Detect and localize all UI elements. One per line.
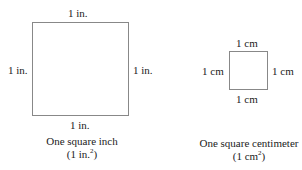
cm-unit-close: ) [262,150,266,162]
inch-unit-close: ) [94,148,98,160]
inch-caption-unit: (1 in.2) [30,148,134,161]
inch-caption: One square inch (1 in.2) [30,135,134,161]
cm-caption: One square centimeter (1 cm2) [196,137,302,163]
cm-bottom-label: 1 cm [236,93,258,105]
cm-caption-title: One square centimeter [196,137,302,150]
inch-caption-title: One square inch [30,135,134,148]
inch-left-label: 1 in. [8,64,28,76]
inch-bottom-label: 1 in. [70,119,90,131]
inch-top-label: 1 in. [68,7,88,19]
cm-right-label: 1 cm [272,65,294,77]
square-inch-shape [32,22,129,116]
inch-right-label: 1 in. [133,64,153,76]
cm-left-label: 1 cm [202,65,224,77]
cm-caption-unit: (1 cm2) [196,150,302,163]
cm-unit-text: (1 cm [233,150,258,162]
inch-unit-text: (1 in. [67,148,90,160]
square-cm-shape [229,51,268,90]
cm-top-label: 1 cm [236,37,258,49]
